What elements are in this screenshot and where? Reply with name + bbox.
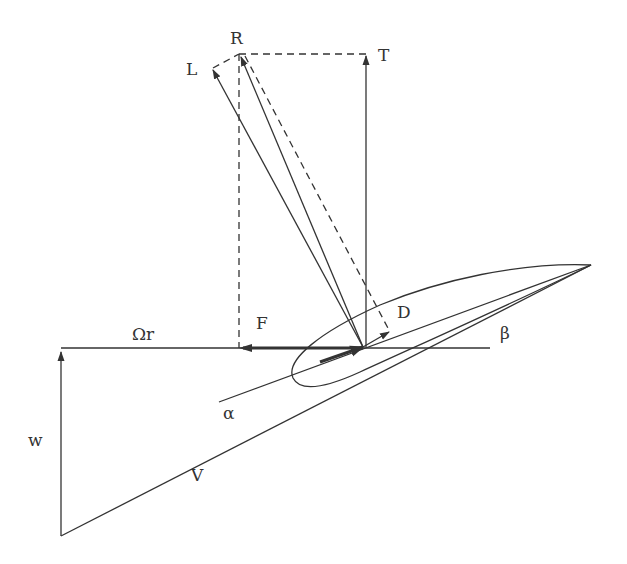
label-alpha: α — [223, 403, 235, 423]
label-omega-r: Ωr — [132, 324, 155, 344]
lift-arrow — [213, 70, 363, 347]
label-w: w — [28, 430, 43, 450]
label-f: F — [256, 313, 268, 333]
blade-element-diagram: R L T D F Ωr β α w V — [0, 0, 627, 564]
lift-resultant-dashed — [213, 54, 239, 68]
label-r: R — [230, 28, 244, 48]
label-l: L — [186, 59, 197, 79]
chord-line — [219, 265, 591, 402]
resultant-drag-dashed — [245, 56, 390, 332]
relative-velocity-line — [61, 265, 591, 536]
label-v: V — [190, 465, 204, 485]
label-d: D — [397, 302, 411, 322]
label-beta: β — [500, 323, 510, 343]
resultant-arrow — [241, 57, 363, 347]
tangential-force-arrowhead — [239, 344, 252, 352]
label-t: T — [378, 45, 390, 65]
